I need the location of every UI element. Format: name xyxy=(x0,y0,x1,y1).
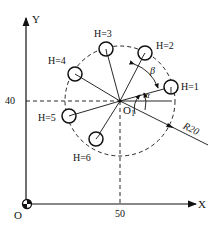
center-point xyxy=(119,100,122,103)
hole-4-label: H=4 xyxy=(48,56,66,66)
hole-3-label: H=3 xyxy=(94,29,112,39)
beta-label: β xyxy=(150,66,155,76)
hole-1-label: H=1 xyxy=(181,82,199,92)
x-axis-label: X xyxy=(198,199,206,210)
y-axis-label: Y xyxy=(32,14,40,25)
y-tick-40: 40 xyxy=(5,96,15,106)
hole-6-label: H=6 xyxy=(73,153,91,163)
center-label: O1 xyxy=(123,105,135,118)
alpha-arc-2 xyxy=(134,95,140,114)
alpha-label: α xyxy=(145,91,150,100)
hole-5-label: H=5 xyxy=(38,113,56,123)
origin-symbol xyxy=(23,200,32,209)
x-tick-50: 50 xyxy=(115,209,125,219)
origin-label: O xyxy=(14,210,22,221)
hole-2-label: H=2 xyxy=(156,41,174,51)
